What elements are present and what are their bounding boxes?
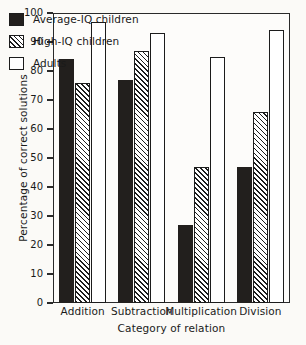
legend-item-label: Average-IQ children <box>33 13 139 25</box>
legend-item-label: Adults <box>33 57 66 69</box>
y-axis-tick-label: 50 <box>30 153 43 163</box>
y-axis-tick-label: 20 <box>30 240 43 250</box>
y-axis-tick-label: 10 <box>30 269 43 279</box>
bar <box>269 30 284 303</box>
bar-group <box>231 13 290 303</box>
bar <box>253 112 268 303</box>
bar <box>178 225 193 303</box>
legend-item-label: High-IQ children <box>33 35 119 47</box>
bar <box>237 167 252 303</box>
y-axis-title: Percentage of correct solutions <box>17 63 29 253</box>
bar <box>194 167 209 303</box>
bar <box>210 57 225 304</box>
hatched-swatch <box>9 35 24 48</box>
legend-item: Adults <box>9 52 189 74</box>
y-axis-tick-label: 40 <box>30 182 43 192</box>
x-axis-tick-label: Division <box>223 305 298 317</box>
white-swatch <box>9 57 24 70</box>
y-axis-tick-label: 60 <box>30 124 43 134</box>
bar <box>118 80 133 303</box>
x-axis-title: Category of relation <box>53 322 290 334</box>
bar <box>75 83 90 303</box>
y-axis-tick-label: 30 <box>30 211 43 221</box>
bar-chart-figure: 0102030405060708090100 Percentage of cor… <box>0 0 306 345</box>
solid-black-swatch <box>9 13 24 26</box>
legend-item: High-IQ children <box>9 30 189 52</box>
y-axis-tick-label: 70 <box>30 95 43 105</box>
chart-legend: Average-IQ childrenHigh-IQ childrenAdult… <box>9 8 189 74</box>
bar <box>134 51 149 303</box>
y-axis-tick-label: 0 <box>37 298 43 308</box>
bar <box>59 59 74 303</box>
legend-item: Average-IQ children <box>9 8 189 30</box>
